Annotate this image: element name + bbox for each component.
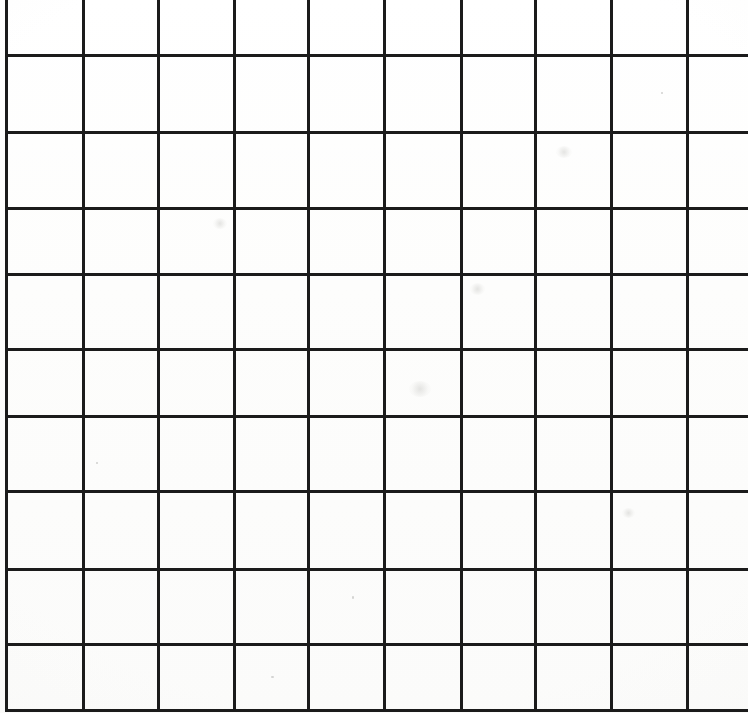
grid-line-vertical-4	[307, 0, 310, 712]
paper-texture-overlay	[0, 0, 748, 713]
scan-smudge-1	[213, 218, 227, 229]
grid-line-horizontal-6	[5, 490, 748, 493]
scan-speck-3	[271, 676, 274, 678]
scan-smudge-3	[409, 381, 431, 397]
grid-line-vertical-6	[460, 0, 463, 712]
grid-paper-sheet	[0, 0, 748, 713]
scan-speck-2	[661, 92, 663, 94]
grid-line-horizontal-1	[5, 131, 748, 134]
grid-line-vertical-9	[686, 0, 689, 712]
scan-smudge-0	[556, 146, 572, 158]
grid-line-horizontal-5	[5, 415, 748, 418]
grid-line-vertical-3	[233, 0, 236, 712]
grid-line-horizontal-8	[5, 643, 748, 646]
grid-line-vertical-5	[383, 0, 386, 712]
grid-line-vertical-1	[82, 0, 85, 712]
grid-line-vertical-7	[534, 0, 537, 712]
scan-speck-0	[96, 462, 98, 464]
grid-line-horizontal-9	[5, 709, 748, 712]
grid-line-horizontal-2	[5, 207, 748, 210]
grid-line-vertical-0	[5, 0, 8, 712]
scan-smudge-2	[470, 283, 485, 295]
grid-line-vertical-8	[610, 0, 613, 712]
grid-line-horizontal-3	[5, 273, 748, 276]
scan-speck-1	[352, 596, 354, 599]
grid-line-horizontal-0	[5, 54, 748, 57]
grid-line-horizontal-7	[5, 568, 748, 571]
grid-line-horizontal-4	[5, 348, 748, 351]
grid-line-vertical-2	[157, 0, 160, 712]
scan-smudge-4	[622, 508, 635, 518]
